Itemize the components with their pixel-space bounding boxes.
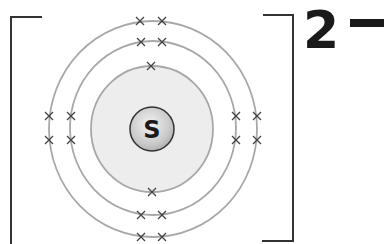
right-bracket — [262, 15, 293, 241]
nucleus-symbol: S — [143, 116, 160, 144]
charge-minus-sign — [350, 19, 384, 27]
charge-number: 2 — [303, 4, 339, 56]
left-bracket — [11, 17, 42, 244]
nucleus: S — [130, 107, 174, 151]
